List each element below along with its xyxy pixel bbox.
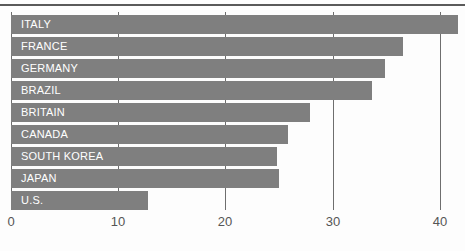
- x-tick-label-0: 0: [7, 214, 14, 229]
- bar-label: U.S.: [21, 191, 43, 210]
- bottom-caption: [8, 240, 268, 251]
- bar-row: CANADA: [11, 125, 288, 144]
- bar-row: JAPAN: [11, 169, 279, 188]
- bar-row: FRANCE: [11, 37, 403, 56]
- bar-france: [11, 37, 403, 56]
- x-tick-label-40: 40: [433, 214, 447, 229]
- bar-chart: ITALYFRANCEGERMANYBRAZILBRITAINCANADASOU…: [0, 0, 465, 251]
- bar-label: SOUTH KOREA: [21, 147, 103, 166]
- bar-row: ITALY: [11, 15, 458, 34]
- bar-label: GERMANY: [21, 59, 78, 78]
- bar-label: CANADA: [21, 125, 68, 144]
- bar-label: JAPAN: [21, 169, 57, 188]
- bar-row: U.S.: [11, 191, 148, 210]
- x-tick-label-30: 30: [326, 214, 340, 229]
- bar-brazil: [11, 81, 372, 100]
- bar-label: BRITAIN: [21, 103, 65, 122]
- bar-row: BRAZIL: [11, 81, 372, 100]
- bar-series: ITALYFRANCEGERMANYBRAZILBRITAINCANADASOU…: [0, 12, 465, 210]
- bar-label: FRANCE: [21, 37, 67, 56]
- bar-italy: [11, 15, 458, 34]
- top-divider-rule: [0, 4, 465, 6]
- bar-row: GERMANY: [11, 59, 385, 78]
- bar-row: BRITAIN: [11, 103, 310, 122]
- bar-label: ITALY: [21, 15, 51, 34]
- bar-label: BRAZIL: [21, 81, 61, 100]
- x-axis: 010203040: [0, 210, 465, 240]
- plot-area: ITALYFRANCEGERMANYBRAZILBRITAINCANADASOU…: [0, 12, 465, 210]
- bar-row: SOUTH KOREA: [11, 147, 277, 166]
- x-tick-label-10: 10: [111, 214, 125, 229]
- x-tick-label-20: 20: [218, 214, 232, 229]
